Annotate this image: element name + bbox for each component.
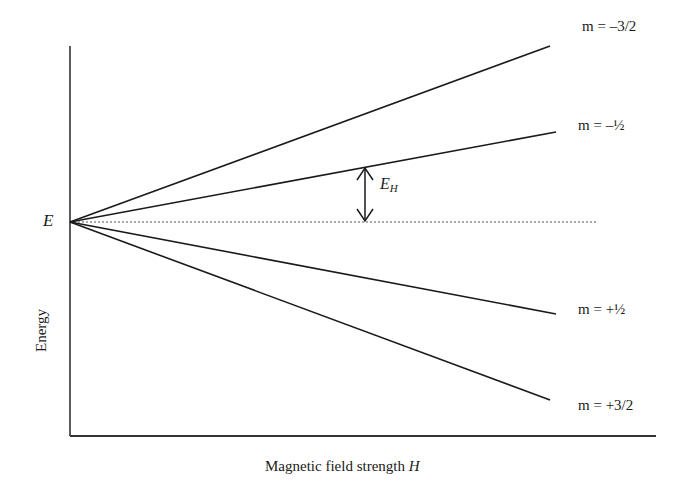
energy-gap-label: EH	[380, 175, 398, 194]
level-line-m-minus-1-2	[70, 132, 556, 222]
level-line-m-plus-1-2	[70, 222, 556, 314]
energy-gap-subscript: H	[390, 182, 398, 194]
energy-gap-symbol: E	[380, 175, 390, 192]
level-label-m-minus-3-2: m = –3/2	[582, 18, 636, 35]
x-axis-label-variable: H	[409, 458, 420, 474]
level-label-m-minus-1-2: m = –½	[578, 117, 624, 134]
origin-energy-label: E	[43, 211, 53, 231]
level-line-m-minus-3-2	[70, 46, 550, 222]
y-axis-label: Energy	[33, 296, 50, 366]
level-label-m-plus-1-2: m = +½	[578, 301, 625, 318]
x-axis-label-text: Magnetic field strength	[265, 458, 405, 474]
level-label-m-plus-3-2: m = +3/2	[578, 397, 633, 414]
energy-gap-arrow-icon	[357, 168, 373, 221]
x-axis-label: Magnetic field strength H	[265, 458, 420, 475]
level-line-m-plus-3-2	[70, 222, 550, 400]
diagram-canvas	[0, 0, 685, 494]
